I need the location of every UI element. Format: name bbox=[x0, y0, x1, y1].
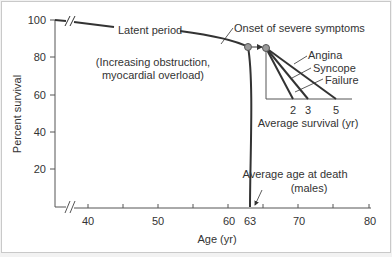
x-tick-63: 63 bbox=[244, 215, 256, 227]
death-label-2: (males) bbox=[291, 182, 328, 194]
x-tick-40: 40 bbox=[82, 215, 94, 227]
inset-x-label: Average survival (yr) bbox=[258, 117, 359, 129]
latent-period-label: Latent period bbox=[118, 24, 182, 36]
y-tick-80: 80 bbox=[34, 51, 46, 63]
death-label-1: Average age at death bbox=[243, 168, 348, 180]
x-tick-70: 70 bbox=[293, 215, 305, 227]
inset-label-angina: Angina bbox=[308, 49, 343, 61]
inset-tick-2: 2 bbox=[290, 104, 296, 116]
inset-label-syncope: Syncope bbox=[313, 62, 356, 74]
y-tick-20: 20 bbox=[34, 163, 46, 175]
y-axis-label: Percent survival bbox=[11, 75, 23, 153]
x-tick-60: 60 bbox=[223, 215, 235, 227]
y-tick-60: 60 bbox=[34, 89, 46, 101]
latent-detail-2: myocardial overload) bbox=[102, 69, 204, 81]
inset-label-failure: Failure bbox=[325, 74, 359, 86]
onset-marker bbox=[245, 44, 252, 51]
onset-label: Onset of severe symptoms bbox=[234, 22, 365, 34]
inset-tick-5: 5 bbox=[333, 104, 339, 116]
survival-curve bbox=[55, 16, 251, 207]
y-tick-40: 40 bbox=[34, 126, 46, 138]
x-axis-label: Age (yr) bbox=[197, 233, 236, 245]
x-tick-50: 50 bbox=[152, 215, 164, 227]
x-tick-80: 80 bbox=[364, 215, 376, 227]
latent-detail-1: (Increasing obstruction, bbox=[96, 56, 210, 68]
inset-tick-3: 3 bbox=[305, 104, 311, 116]
x-axis bbox=[55, 201, 371, 213]
death-arrow bbox=[255, 190, 262, 205]
survival-chart: 100 80 60 40 20 40 50 60 63 70 80 Age (y… bbox=[0, 0, 392, 257]
y-tick-100: 100 bbox=[28, 14, 46, 26]
y-axis bbox=[50, 20, 55, 207]
